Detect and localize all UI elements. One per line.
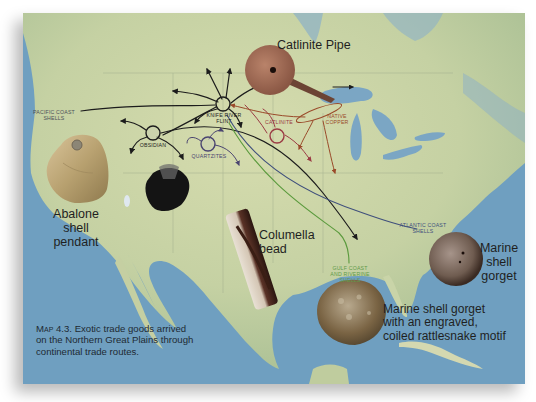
knife-river-flint-label: Knife River Flint: [198, 113, 250, 125]
marine-gorget-label: Marine shell gorget: [475, 241, 523, 283]
gulf-coast-label: Gulf Coast and Riverine Shells: [323, 266, 377, 284]
obsidian-hub: [146, 126, 160, 140]
figure-label: Map 4.3.: [36, 323, 72, 334]
rattlesnake-gorget-label: Marine shell gorget with an engraved, co…: [383, 303, 523, 343]
obsidian-label: Obsidian: [131, 143, 175, 149]
native-copper-label: Native Copper: [319, 114, 355, 126]
map-caption: Map 4.3. Exotic trade goods arrived on t…: [36, 323, 256, 357]
abalone-pendant-label: Abalone shell pendant: [41, 207, 111, 249]
quartzites-label: Quartzites: [183, 154, 235, 160]
pacific-coast-label: Pacific Coast Shells: [29, 110, 79, 122]
catlinite-label: Catlinite: [259, 120, 299, 126]
trade-routes-map: Catlinite Pipe Pacific Coast Shells Knif…: [23, 13, 525, 384]
columella-bead-label: Columella bead: [259, 228, 339, 256]
catlinite-pipe-label: Catlinite Pipe: [277, 38, 377, 52]
atlantic-coast-label: Atlantic Coast Shells: [395, 223, 451, 235]
quartzites-hub: [201, 137, 215, 151]
